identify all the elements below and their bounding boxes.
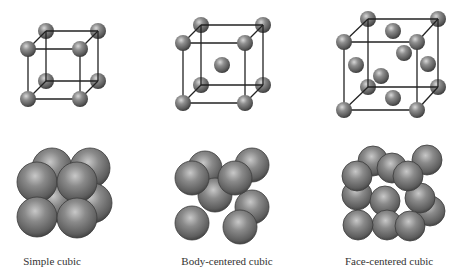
atom-icon [175,95,191,111]
face-centered-cubic-panel [336,11,446,241]
atom-icon [72,41,88,57]
atom-icon [385,90,401,106]
atom-icon [214,57,230,73]
packed-sphere-icon [218,161,252,195]
atom-icon [348,57,364,73]
face-centered-cubic-label: Face-centered cubic [345,255,433,267]
unit-cell-figure: Simple cubic Body-centered cubic Face-ce… [0,0,466,273]
packed-sphere-icon [395,211,425,241]
atom-icon [385,23,401,39]
packed-sphere-icon [393,161,423,191]
packed-sphere-icon [343,210,373,240]
atom-icon [336,102,352,118]
packed-sphere-icon [17,197,57,237]
body-centered-cubic-label: Body-centered cubic [181,255,272,267]
atom-icon [20,41,36,57]
packed-sphere-icon [57,162,97,202]
simple-cubic-panel [17,23,112,238]
packed-sphere-icon [175,206,209,240]
packed-sphere-icon [175,161,209,195]
atom-icon [420,56,436,72]
simple-cubic-label: Simple cubic [23,255,81,267]
body-centered-cubic-panel [175,17,271,244]
figure-canvas [0,0,466,273]
atom-icon [336,34,352,50]
atom-icon [72,91,88,107]
packed-sphere-icon [223,210,257,244]
atom-icon [373,68,389,84]
atom-icon [237,35,253,51]
packed-sphere-icon [17,162,57,202]
atom-icon [409,34,425,50]
atom-icon [20,91,36,107]
atom-icon [396,45,412,61]
packed-sphere-icon [342,161,372,191]
packed-sphere-icon [57,198,97,238]
atom-icon [175,35,191,51]
atom-icon [409,102,425,118]
atom-icon [237,95,253,111]
